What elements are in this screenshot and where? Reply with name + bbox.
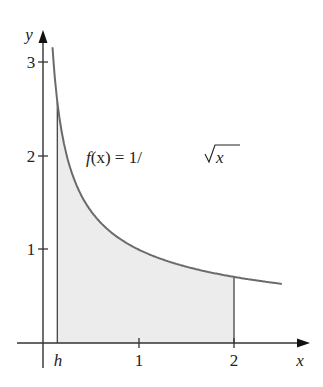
tick-label-y3: 3 xyxy=(27,53,36,72)
chart: h 1 2 x 1 2 3 y f(x) = 1/ x xyxy=(0,0,323,387)
tick-label-y2: 2 xyxy=(27,147,36,166)
tick-label-x2: 2 xyxy=(230,351,239,370)
function-label: f(x) = 1/ x xyxy=(86,145,240,167)
tick-label-h: h xyxy=(54,351,63,370)
x-axis-arrow-icon xyxy=(297,339,310,348)
tick-label-x1: 1 xyxy=(135,351,144,370)
y-axis-arrow-icon xyxy=(39,30,48,43)
x-axis-label: x xyxy=(295,351,304,370)
shaded-area xyxy=(57,102,234,343)
svg-text:x: x xyxy=(215,148,224,167)
svg-text:f(x) = 1/: f(x) = 1/ xyxy=(86,148,142,167)
tick-label-y1: 1 xyxy=(27,240,36,259)
y-axis-label: y xyxy=(23,25,33,44)
